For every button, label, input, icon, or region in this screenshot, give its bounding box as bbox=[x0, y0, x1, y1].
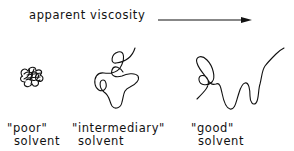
intermediary-solvent-label: solvent bbox=[72, 135, 165, 148]
intermediary-solvent-coil bbox=[95, 48, 139, 108]
poor-solvent-label: solvent bbox=[7, 135, 60, 148]
viscosity-arrow-icon bbox=[158, 17, 252, 23]
good-solvent-label: solvent bbox=[191, 135, 244, 148]
good-solvent-coil bbox=[197, 48, 284, 109]
poor-solvent-coil bbox=[21, 67, 43, 86]
poor-solvent-caption: "poor" solvent bbox=[7, 122, 60, 148]
intermediary-solvent-caption: "intermediary" solvent bbox=[72, 122, 165, 148]
good-solvent-caption: "good" solvent bbox=[191, 122, 244, 148]
